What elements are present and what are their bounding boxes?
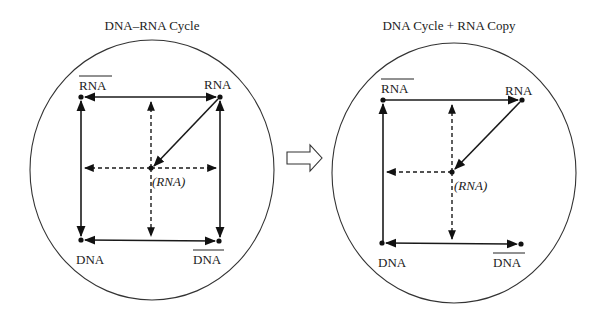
right-node-rnabar [380, 97, 385, 102]
right-node-rna [519, 97, 524, 102]
right-node-dna [379, 240, 384, 245]
left-label-rnabar: RNA [79, 78, 107, 93]
right-label-dnabar: DNA [493, 255, 522, 270]
hollow-right-arrow-icon [287, 145, 322, 171]
left-node-center [148, 165, 153, 170]
right-label-rna: RNA [505, 83, 533, 98]
right-bottom-edge [386, 243, 517, 244]
left-label-dna: DNA [76, 252, 105, 267]
left-node-rnabar [78, 94, 83, 99]
left-panel-title: DNA–RNA Cycle [105, 18, 200, 33]
left-label-rna: RNA [204, 77, 232, 92]
right-label-rnabar: RNA [381, 81, 409, 96]
left-label-dnabar: DNA [193, 252, 222, 267]
right-node-dnabar [518, 241, 523, 246]
left-diagonal [154, 99, 218, 166]
left-label-center: (RNA) [152, 174, 185, 189]
left-bottom-edge [85, 240, 215, 241]
right-panel: DNA Cycle + RNA Copy RNA RNA DNA DNA (RN… [332, 18, 576, 303]
diagram-root: DNA–RNA Cycle RNA RNA DNA DNA (RNA) [0, 0, 603, 313]
right-node-center [449, 169, 454, 174]
right-label-dna: DNA [378, 255, 407, 270]
left-node-dnabar [216, 238, 221, 243]
right-diagonal [455, 102, 520, 169]
right-label-center: (RNA) [454, 178, 487, 193]
left-panel: DNA–RNA Cycle RNA RNA DNA DNA (RNA) [30, 18, 274, 300]
left-node-dna [78, 237, 83, 242]
right-panel-title: DNA Cycle + RNA Copy [382, 18, 516, 33]
left-node-rna [217, 94, 222, 99]
